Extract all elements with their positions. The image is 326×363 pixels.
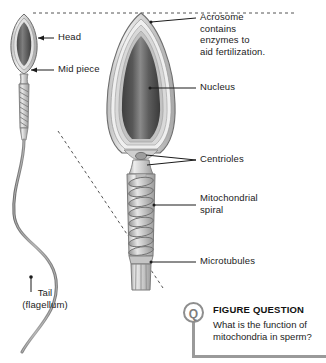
label-tail-flagellum: Tail (flagellum) (8, 287, 82, 310)
label-microtubules: Microtubules (200, 255, 255, 267)
label-head: Head (58, 31, 81, 43)
overview-annulus (20, 128, 28, 140)
annulus (129, 256, 153, 264)
enlarged-sperm-detail (107, 13, 175, 290)
figure-question-text: What is the function of mitochondria in … (213, 319, 325, 343)
figure-question-box: Q FIGURE QUESTION What is the function o… (183, 302, 326, 358)
label-acrosome: Acrosome contains enzymes to aid fertili… (200, 11, 320, 57)
question-badge-icon: Q (183, 302, 204, 323)
label-nucleus: Nucleus (200, 81, 235, 93)
label-centrioles: Centrioles (200, 153, 244, 165)
label-mid-piece: Mid piece (58, 63, 100, 75)
connecting-piece (129, 160, 153, 174)
label-mitochondrial-spiral: Mitochondrial spiral (200, 192, 312, 215)
overview-neck (20, 74, 28, 84)
sperm-anatomy-figure: Head Mid piece Tail (flagellum) Acrosome… (0, 0, 326, 363)
figure-question-title: FIGURE QUESTION (213, 304, 304, 315)
